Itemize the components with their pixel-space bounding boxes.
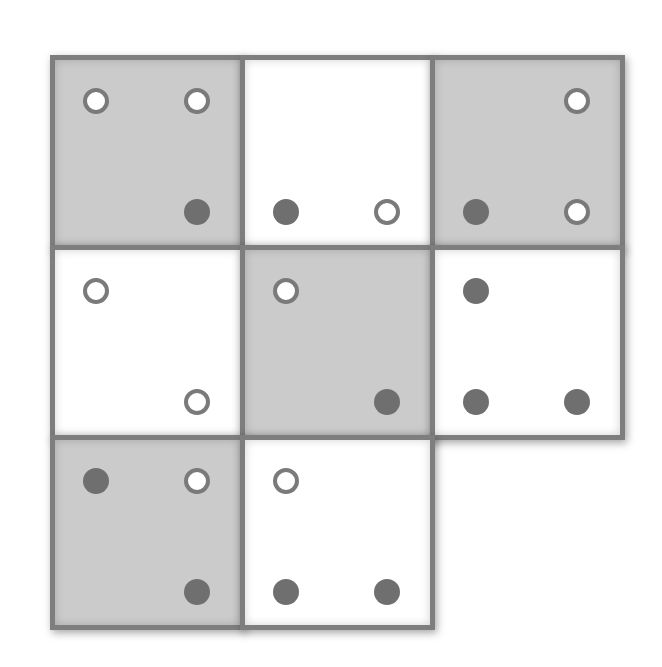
filled-dot-icon (184, 199, 210, 225)
hollow-dot-icon (184, 88, 210, 114)
tile-r1-c1 (240, 245, 435, 440)
hollow-dot-icon (564, 199, 590, 225)
hollow-dot-icon (184, 468, 210, 494)
tile-r0-c0 (50, 55, 245, 250)
hollow-dot-icon (273, 278, 299, 304)
filled-dot-icon (374, 389, 400, 415)
tile-r1-c2 (430, 245, 625, 440)
hollow-dot-icon (184, 389, 210, 415)
filled-dot-icon (83, 468, 109, 494)
hollow-dot-icon (273, 468, 299, 494)
hollow-dot-icon (564, 88, 590, 114)
tile-r1-c0 (50, 245, 245, 440)
filled-dot-icon (463, 199, 489, 225)
tile-r0-c2 (430, 55, 625, 250)
hollow-dot-icon (83, 88, 109, 114)
puzzle-board (0, 0, 662, 667)
filled-dot-icon (184, 579, 210, 605)
filled-dot-icon (463, 389, 489, 415)
tile-r2-c0 (50, 435, 245, 630)
filled-dot-icon (564, 389, 590, 415)
filled-dot-icon (374, 579, 400, 605)
filled-dot-icon (273, 579, 299, 605)
filled-dot-icon (463, 278, 489, 304)
tile-r0-c1 (240, 55, 435, 250)
hollow-dot-icon (374, 199, 400, 225)
tile-r2-c1 (240, 435, 435, 630)
hollow-dot-icon (83, 278, 109, 304)
filled-dot-icon (273, 199, 299, 225)
